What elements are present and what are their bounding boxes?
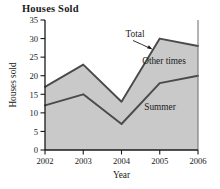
x-tick-label-2006: 2006	[189, 156, 207, 166]
x-tick-label-2002: 2002	[36, 156, 53, 166]
x-tick-label-2004: 2004	[113, 156, 131, 166]
x-axis-ticks	[45, 150, 198, 155]
y-tick-label-10: 10	[29, 108, 38, 118]
area-chart: 35 30 25 20 15 10 5 0 2002 2003 2004 200…	[0, 0, 220, 189]
figure-houses-sold: Houses Sold 35 30 2	[0, 0, 220, 189]
y-tick-label-25: 25	[29, 52, 38, 62]
y-axis-ticks	[41, 20, 46, 150]
y-tick-label-20: 20	[29, 71, 38, 81]
y-tick-label-30: 30	[29, 34, 38, 44]
y-axis-title: Houses sold	[8, 62, 18, 108]
y-tick-label-0: 0	[34, 145, 38, 155]
x-tick-label-2003: 2003	[75, 156, 92, 166]
annotation-label-total: Total	[126, 29, 145, 39]
x-tick-label-2005: 2005	[151, 156, 168, 166]
y-tick-label-15: 15	[29, 90, 38, 100]
annotation-label-summer: Summer	[144, 102, 176, 112]
y-tick-label-5: 5	[34, 127, 38, 137]
y-tick-label-35: 35	[29, 15, 38, 25]
x-axis-title: Year	[113, 170, 131, 180]
annotation-label-other-times: Other times	[142, 56, 186, 66]
